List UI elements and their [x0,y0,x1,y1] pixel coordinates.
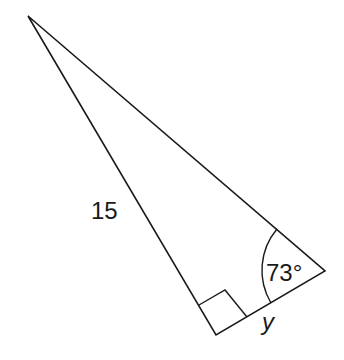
side-label: y [260,308,276,335]
angle-label: 73° [266,259,302,286]
triangle-diagram: 15 73° y [0,0,344,360]
right-angle-marker [199,290,247,317]
hypotenuse-label: 15 [91,197,118,224]
triangle [28,16,325,335]
